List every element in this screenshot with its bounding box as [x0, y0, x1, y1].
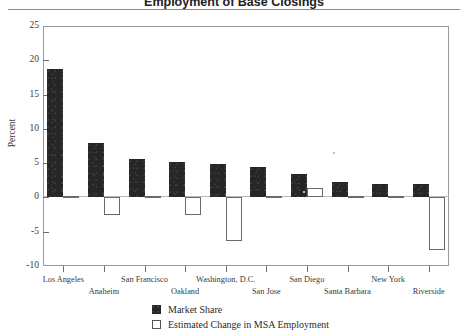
x-axis-label: San Francisco — [121, 276, 168, 284]
legend-item-employment-change: Estimated Change in MSA Employment — [152, 318, 329, 330]
x-axis-label: Washington, D.C. — [196, 276, 255, 284]
x-axis-label: Los Angeles — [43, 276, 84, 284]
bar-employment-change — [266, 196, 282, 198]
bar-employment-change — [348, 196, 364, 198]
legend-label-market-share: Market Share — [168, 304, 222, 315]
x-axis-label: San Diego — [289, 276, 324, 284]
plot-area — [43, 26, 449, 266]
y-axis-tick-label: -5 — [14, 227, 39, 237]
chart-page: Employment of Base Closings Percent -10-… — [0, 0, 468, 333]
bar-employment-change — [429, 197, 445, 249]
x-axis-tick-mark — [266, 266, 267, 272]
x-axis-tick-mark — [429, 266, 430, 272]
y-axis-tick-mark — [43, 197, 49, 198]
bar-market-share — [169, 162, 185, 197]
x-axis-tick-mark — [388, 266, 389, 272]
y-axis-tick-label: -10 — [14, 261, 39, 271]
chart-title: Employment of Base Closings — [144, 0, 324, 9]
y-axis-tick-mark — [43, 232, 49, 233]
legend-swatch-market-share-icon — [152, 305, 161, 314]
x-axis-label: Riverside — [413, 288, 445, 296]
bar-employment-change — [226, 197, 242, 240]
bar-employment-change — [185, 197, 201, 214]
x-axis-tick-mark — [145, 266, 146, 272]
x-axis-label: Anaheim — [89, 288, 119, 296]
x-axis-label: New York — [371, 276, 405, 284]
y-axis-tick-label: 20 — [14, 55, 39, 65]
y-axis-tick-label: 5 — [14, 158, 39, 168]
y-axis-tick-mark — [43, 60, 49, 61]
bar-employment-change — [145, 196, 161, 198]
bar-employment-change — [307, 188, 323, 198]
legend-label-employment-change: Estimated Change in MSA Employment — [168, 319, 329, 330]
x-axis-tick-mark — [307, 266, 308, 272]
x-axis-tick-mark — [348, 266, 349, 272]
bar-employment-change — [104, 197, 120, 215]
x-axis-label: San Jose — [252, 288, 281, 296]
x-axis-label: Santa Barbara — [324, 288, 371, 296]
title-divider — [8, 9, 460, 10]
bar-employment-change — [63, 196, 79, 198]
x-axis-label: Oakland — [171, 288, 199, 296]
x-axis-tick-mark — [104, 266, 105, 272]
bar-market-share — [250, 167, 266, 198]
x-axis-tick-mark — [63, 266, 64, 272]
bar-market-share — [413, 184, 429, 198]
chart-title-band: Employment of Base Closings — [0, 0, 468, 9]
bar-market-share — [88, 143, 104, 197]
y-axis-tick-label: 0 — [14, 192, 39, 202]
bar-market-share — [47, 69, 63, 198]
legend-swatch-employment-change-icon — [152, 320, 161, 329]
bar-market-share — [372, 184, 388, 197]
x-axis-tick-mark — [226, 266, 227, 272]
bar-market-share — [291, 174, 307, 197]
x-axis-tick-mark — [185, 266, 186, 272]
y-axis-tick-label: 15 — [14, 90, 39, 100]
y-axis-tick-label: 10 — [14, 124, 39, 134]
scan-speck — [303, 191, 305, 193]
bar-employment-change — [388, 196, 404, 198]
bar-market-share — [332, 182, 348, 198]
chart-legend: Market Share Estimated Change in MSA Emp… — [152, 303, 329, 333]
legend-item-market-share: Market Share — [152, 303, 329, 315]
y-axis-tick-label: 25 — [14, 21, 39, 31]
bar-market-share — [129, 159, 145, 197]
bar-market-share — [210, 164, 226, 198]
scan-speck — [333, 152, 335, 154]
